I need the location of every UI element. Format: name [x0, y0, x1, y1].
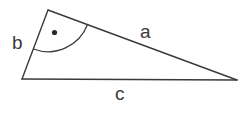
right-angle-dot	[52, 30, 57, 35]
side-b-line	[22, 10, 48, 79]
right-triangle-diagram: b a c	[0, 0, 252, 116]
side-c-line	[22, 79, 237, 80]
side-a-label: a	[140, 21, 151, 42]
side-c-label: c	[115, 83, 125, 104]
side-b-label: b	[12, 32, 23, 53]
